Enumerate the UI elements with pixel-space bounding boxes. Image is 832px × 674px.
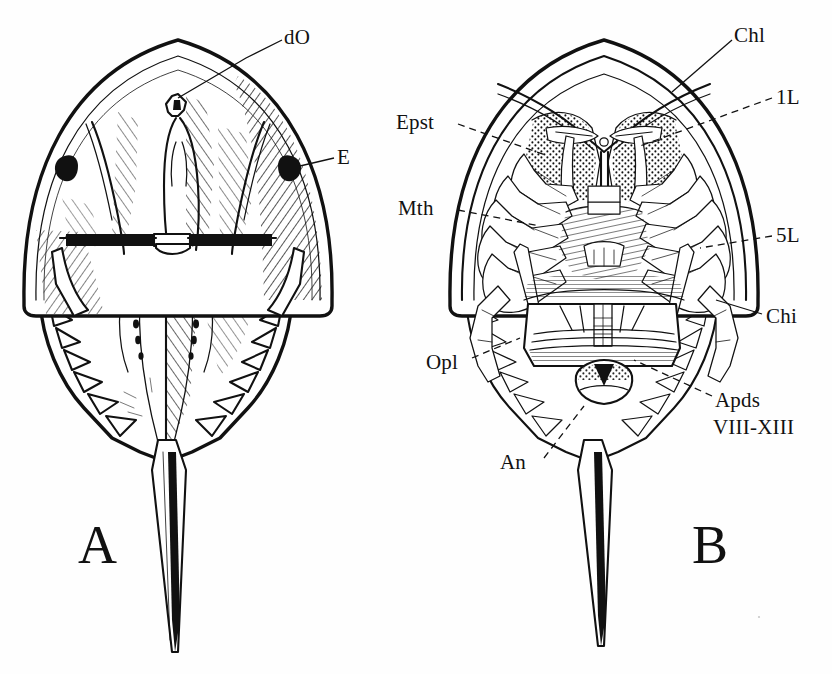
label-5L: 5L bbox=[776, 224, 800, 248]
label-Mth: Mth bbox=[398, 197, 434, 221]
label-segments-VIII-XIII: VIII-XIII bbox=[713, 416, 794, 440]
label-Chl: Chl bbox=[734, 24, 765, 48]
panel-a-dorsal-drawing bbox=[24, 40, 332, 652]
hinge-bar-right-a bbox=[190, 234, 272, 246]
sternal-bristles-b bbox=[524, 273, 684, 300]
figure-plate: dO E Chl 1L Epst Mth 5L Chi Opl An Apds … bbox=[0, 0, 832, 674]
label-An: An bbox=[500, 451, 526, 475]
page-speck bbox=[758, 616, 760, 618]
label-Epst: Epst bbox=[396, 111, 434, 135]
label-Chi: Chi bbox=[766, 305, 797, 329]
hinge-bar-left-a bbox=[66, 234, 154, 246]
median-ocellus-b bbox=[600, 138, 608, 146]
mouth-plate-b bbox=[588, 186, 620, 214]
panel-letter-b: B bbox=[692, 518, 728, 572]
label-1L: 1L bbox=[776, 86, 800, 110]
label-dO: dO bbox=[284, 26, 310, 50]
label-Apds: Apds bbox=[715, 389, 760, 413]
label-Opl: Opl bbox=[426, 351, 458, 375]
leader-Chl bbox=[672, 40, 732, 92]
label-E: E bbox=[337, 146, 350, 170]
dorsal-ocellus-core-a bbox=[173, 100, 181, 110]
panel-letter-a: A bbox=[78, 518, 117, 572]
